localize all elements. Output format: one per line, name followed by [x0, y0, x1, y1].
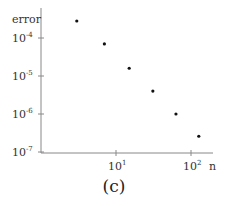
y-tick-label: 10-6	[12, 107, 33, 121]
y-tick-label: 10-4	[12, 31, 33, 45]
x-tick-label: 101	[108, 159, 126, 173]
x-tick-label: 102	[183, 159, 201, 173]
y-ticks: 10-410-510-610-7	[12, 31, 44, 159]
y-tick-label: 10-5	[12, 69, 33, 83]
x-axis-label: n	[209, 160, 216, 173]
y-tick-label: 10-7	[12, 145, 33, 159]
data-point	[174, 112, 177, 115]
figure-caption: (c)	[0, 176, 228, 196]
data-point	[197, 135, 200, 138]
data-points	[75, 19, 200, 137]
data-point	[103, 42, 106, 45]
data-point	[151, 90, 154, 93]
data-point	[75, 19, 78, 22]
data-point	[128, 67, 131, 70]
y-axis-label: error	[12, 13, 42, 26]
